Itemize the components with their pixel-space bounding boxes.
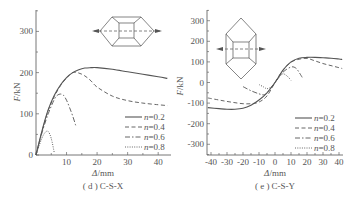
x-tick-label: 20 (303, 157, 313, 167)
x-tick-label: 10 (287, 157, 297, 167)
arrow-left-icon (216, 47, 223, 51)
y-tick-label: 100 (191, 57, 205, 67)
arrow-left-icon (92, 29, 99, 33)
legend-label: n=0.6 (144, 132, 165, 142)
caption-d: ( d )C-S-X (83, 181, 124, 191)
x-tick-label: 10 (62, 157, 72, 167)
legend-label: n=0.8 (144, 142, 165, 152)
y-tick-label: 300 (191, 16, 205, 26)
series-line (36, 94, 76, 155)
legend: n=0.2n=0.4n=0.6n=0.8 (125, 112, 165, 152)
x-tick-label: -40 (205, 157, 217, 167)
legend-label: n=0.4 (314, 123, 335, 133)
joint-inset-icon (92, 17, 162, 46)
y-axis-label: F/kN (12, 82, 22, 103)
y-tick-label: 0 (200, 78, 205, 88)
chart-e: -40-30-20-10010203040-300-200-1000100200… (175, 10, 344, 191)
joint-inset-icon (216, 18, 266, 79)
figure: 102030400100200300 F/kN Δ/mm ( d )C-S-X … (0, 0, 350, 204)
x-axis-label: Δ/mm (91, 168, 114, 178)
x-tick-label: 20 (93, 157, 103, 167)
series-lines (208, 57, 342, 109)
legend-label: n=0.2 (144, 112, 165, 122)
y-tick-label: -300 (188, 139, 205, 149)
series-line (243, 67, 302, 95)
caption-e: ( e )C-S-Y (255, 181, 296, 191)
x-tick-label: 30 (319, 157, 329, 167)
legend: n=0.2n=0.4n=0.6n=0.8 (295, 113, 335, 153)
y-tick-label: 100 (20, 109, 34, 119)
chart-d: 102030400100200300 F/kN Δ/mm ( d )C-S-X … (12, 10, 171, 191)
x-tick-label: 30 (123, 157, 133, 167)
legend-label: n=0.8 (314, 143, 335, 153)
legend-label: n=0.2 (314, 113, 335, 123)
y-tick-label: 200 (191, 36, 205, 46)
x-tick-label: -20 (237, 157, 249, 167)
x-tick-label: -10 (253, 157, 265, 167)
y-tick-label: -200 (188, 119, 205, 129)
y-axis-label: F/kN (175, 76, 185, 97)
x-tick-label: -30 (221, 157, 233, 167)
legend-label: n=0.4 (144, 122, 165, 132)
x-tick-label: 40 (154, 157, 164, 167)
y-tick-label: 200 (20, 68, 34, 78)
x-tick-label: 0 (273, 157, 278, 167)
arrow-right-icon (259, 47, 266, 51)
y-tick-label: 0 (29, 150, 34, 160)
x-tick-label: 40 (335, 157, 345, 167)
arrow-right-icon (155, 29, 162, 33)
series-line (259, 74, 291, 89)
series-line (208, 58, 342, 104)
x-axis-label: Δ/mm (263, 168, 286, 178)
y-tick-label: 300 (20, 26, 34, 36)
tick-labels: 102030400100200300 (20, 26, 164, 167)
y-tick-label: -100 (188, 98, 205, 108)
legend-label: n=0.6 (314, 133, 335, 143)
